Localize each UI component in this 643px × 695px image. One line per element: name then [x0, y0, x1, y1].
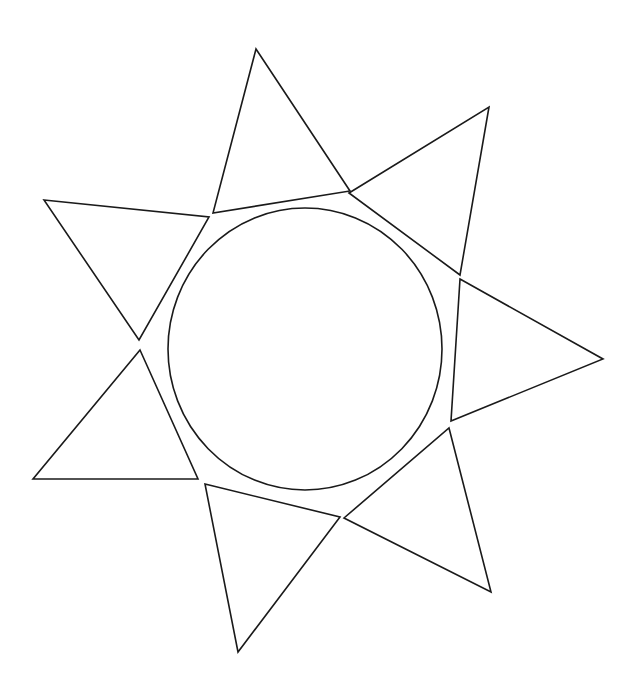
ray-right [451, 279, 603, 421]
ray-top [213, 49, 350, 213]
sun-drawing [0, 0, 643, 695]
ray-lower-left [33, 350, 198, 479]
sun-center-circle [168, 208, 442, 490]
ray-upper-right [349, 107, 489, 275]
ray-bottom [205, 484, 340, 652]
ray-upper-left [44, 200, 209, 340]
ray-lower-right [344, 428, 491, 592]
sun-drawing-canvas [0, 0, 643, 695]
sun-rays-group [33, 49, 603, 652]
